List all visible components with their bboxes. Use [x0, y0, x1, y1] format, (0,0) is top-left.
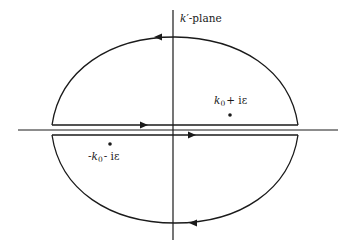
arrow-left-top — [154, 34, 162, 41]
plane-label: k′-plane — [180, 12, 222, 24]
arrow-right-lower — [188, 132, 196, 139]
arrow-left-bottom — [189, 220, 197, 227]
pole-upper-label: k0+ iε — [214, 94, 247, 108]
lower-contour — [52, 135, 298, 223]
arrow-right-upper — [140, 122, 148, 129]
contour-diagram: k′-plane k0+ iε -k0- iε — [0, 0, 353, 248]
pole-upper-point — [228, 113, 232, 117]
upper-contour — [52, 37, 298, 125]
pole-lower-point — [108, 142, 112, 146]
pole-lower-label: -k0- iε — [88, 150, 119, 164]
